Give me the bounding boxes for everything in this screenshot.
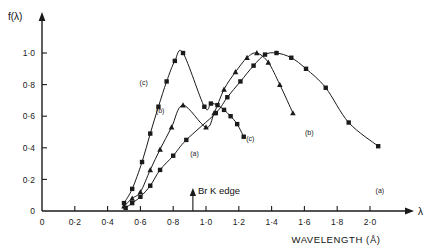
data-markers-group: [121, 50, 380, 210]
y-tick-label: 0·6: [23, 111, 36, 121]
data-point-c: [130, 187, 134, 191]
x-tick-label: 0: [40, 217, 45, 227]
data-point-a: [274, 51, 278, 55]
data-point-c: [202, 105, 206, 109]
data-point-a: [148, 184, 152, 188]
data-series-group: [124, 50, 378, 207]
data-point-c: [122, 201, 126, 205]
chart-annotations: Br K edge: [190, 185, 240, 211]
data-point-a: [376, 144, 380, 148]
y-axis-arrowhead: [39, 12, 46, 21]
data-point-c: [164, 79, 168, 83]
y-tick-label: 0: [30, 206, 35, 216]
data-point-c: [215, 103, 219, 107]
x-tick-label: 2·0: [364, 217, 377, 227]
data-curve-c: [124, 50, 244, 203]
data-point-c: [209, 101, 213, 105]
data-point-a: [289, 56, 293, 60]
data-point-b: [138, 189, 144, 194]
curve-label-c: (c): [246, 135, 254, 143]
data-point-a: [238, 79, 242, 83]
x-tick-label: 0·2: [69, 217, 82, 227]
y-tick-label: 0·4: [23, 143, 36, 153]
data-point-a: [158, 168, 162, 172]
data-point-a: [251, 63, 255, 67]
data-point-c: [181, 51, 185, 55]
x-tick-label: 1·0: [200, 217, 213, 227]
y-tick-label: 1·0: [23, 48, 36, 58]
data-point-c: [222, 108, 226, 112]
series-labels: (a)(a)(b)(b)(c)(c): [140, 79, 385, 195]
chart-canvas: 00·20·40·60·81·01·21·41·61·82·0 00·20·40…: [0, 0, 432, 252]
data-point-a: [184, 138, 188, 142]
x-tick-label: 1·4: [265, 217, 278, 227]
data-point-a: [346, 120, 350, 124]
data-point-c: [148, 131, 152, 135]
data-point-a: [138, 195, 142, 199]
data-point-c: [235, 122, 239, 126]
curve-label-c: (c): [140, 79, 148, 87]
data-point-c: [173, 59, 177, 63]
br-k-edge-label: Br K edge: [198, 185, 240, 196]
data-point-a: [324, 86, 328, 90]
curve-label-a: (a): [376, 187, 385, 195]
curve-label-b: (b): [305, 129, 314, 137]
x-tick-label: 0·6: [134, 217, 147, 227]
data-point-a: [225, 95, 229, 99]
up-arrow-icon: [190, 188, 196, 196]
data-point-b: [147, 167, 153, 172]
x-axis-ticks: 00·20·40·60·81·01·21·41·61·82·0: [40, 206, 377, 227]
scientific-line-chart: 00·20·40·60·81·01·21·41·61·82·0 00·20·40…: [0, 0, 432, 252]
data-point-c: [140, 160, 144, 164]
data-point-b: [169, 124, 175, 129]
x-tick-label: 1·2: [233, 217, 246, 227]
data-point-b: [157, 146, 163, 151]
curve-label-b: (b): [156, 107, 165, 115]
x-axis-title: WAVELENGTH (Å): [291, 234, 380, 245]
data-point-a: [304, 67, 308, 71]
x-axis-symbol-label: λ: [418, 206, 423, 217]
data-point-c: [228, 114, 232, 118]
data-point-b: [277, 82, 283, 87]
x-tick-label: 0·4: [101, 217, 114, 227]
data-point-a: [171, 154, 175, 158]
x-tick-label: 1·8: [331, 217, 344, 227]
y-tick-label: 0·8: [23, 80, 36, 90]
x-tick-label: 1·6: [298, 217, 311, 227]
y-axis-label: f(λ): [8, 11, 22, 22]
data-point-b: [180, 102, 186, 107]
data-curve-a: [126, 53, 379, 208]
curve-label-a: (a): [190, 150, 199, 158]
data-point-b: [290, 110, 296, 115]
x-tick-label: 0·8: [167, 217, 180, 227]
x-axis-arrowhead: [405, 208, 414, 215]
y-tick-label: 0·2: [23, 175, 36, 185]
data-point-b: [129, 195, 135, 200]
data-point-a: [263, 52, 267, 56]
data-point-a: [130, 201, 134, 205]
y-axis-ticks: 00·20·40·60·81·0: [23, 48, 47, 216]
data-point-b: [221, 86, 227, 91]
